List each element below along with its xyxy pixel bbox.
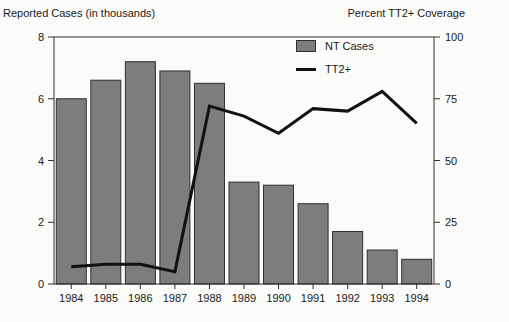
left-tick-label: 2 [38, 216, 44, 228]
x-tick-label: 1994 [404, 292, 428, 304]
x-tick-label: 1988 [197, 292, 221, 304]
x-tick-label: 1992 [335, 292, 359, 304]
legend: NT Cases TT2+ [296, 39, 374, 76]
legend-row-line: TT2+ [296, 62, 374, 76]
x-tick-label: 1991 [301, 292, 325, 304]
bar-1992 [333, 232, 363, 284]
left-tick-label: 4 [38, 155, 44, 167]
bar-1987 [160, 71, 190, 284]
bar-1991 [298, 204, 328, 284]
right-tick-label: 25 [445, 216, 457, 228]
bar-swatch-icon [296, 40, 316, 52]
x-tick-label: 1987 [163, 292, 187, 304]
line-legend-label: TT2+ [325, 63, 351, 75]
x-tick-label: 1985 [94, 292, 118, 304]
plot-area: 0246802550751001984198519861987198819891… [0, 0, 509, 322]
x-tick-label: 1990 [266, 292, 290, 304]
left-tick-label: 6 [38, 93, 44, 105]
bar-1990 [264, 185, 294, 284]
bar-1989 [229, 182, 259, 284]
bar-1994 [402, 259, 432, 284]
x-tick-label: 1989 [232, 292, 256, 304]
bar-1993 [367, 250, 397, 284]
right-tick-label: 100 [445, 31, 463, 43]
right-tick-label: 0 [445, 278, 451, 290]
left-tick-label: 0 [38, 278, 44, 290]
right-tick-label: 50 [445, 155, 457, 167]
bar-legend-label: NT Cases [325, 40, 374, 52]
x-tick-label: 1993 [370, 292, 394, 304]
legend-row-bar: NT Cases [296, 39, 374, 53]
left-tick-label: 8 [38, 31, 44, 43]
x-tick-label: 1986 [128, 292, 152, 304]
bar-1984 [56, 99, 86, 284]
right-tick-label: 75 [445, 93, 457, 105]
dual-axis-chart: Reported Cases (in thousands) Percent TT… [0, 0, 509, 322]
line-swatch-icon [296, 68, 316, 71]
x-tick-label: 1984 [59, 292, 83, 304]
bar-1985 [91, 80, 121, 284]
bar-1986 [125, 62, 155, 284]
